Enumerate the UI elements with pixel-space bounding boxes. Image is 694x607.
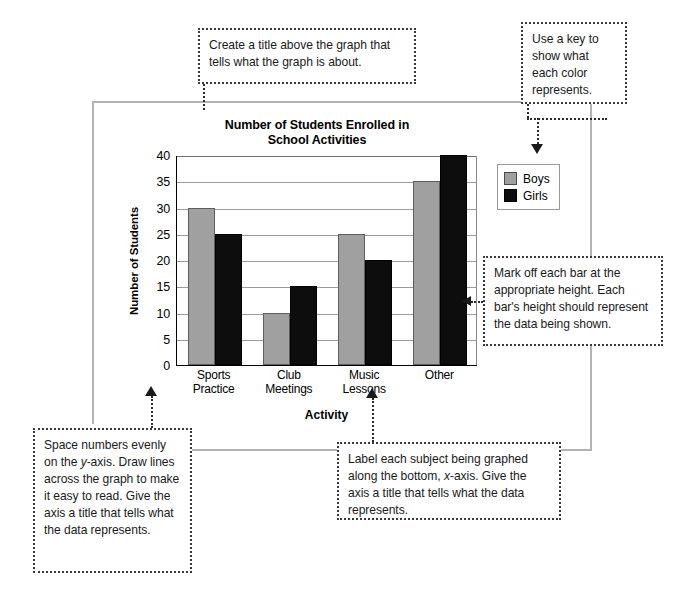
leader-bars-stem xyxy=(471,301,483,303)
leader-yaxis-stem xyxy=(151,396,153,428)
x-tick-label-line: Meetings xyxy=(251,382,326,396)
x-tick-label-line: Music xyxy=(327,368,402,382)
callout-key-note-text: Use a key to show what each color repres… xyxy=(532,32,599,97)
chart-title-line-2: School Activities xyxy=(162,133,472,148)
chart-title: Number of Students Enrolled in School Ac… xyxy=(162,118,472,148)
bar-boys xyxy=(413,181,440,365)
callout-title-note-text: Create a title above the graph that tell… xyxy=(209,38,390,69)
legend-label-girls: Girls xyxy=(523,189,548,203)
leader-xaxis-stem xyxy=(372,398,374,442)
x-tick-label-line: Club xyxy=(251,368,326,382)
x-tick-label: SportsPractice xyxy=(176,368,251,396)
bar-boys xyxy=(338,234,365,365)
bar-group xyxy=(327,156,402,365)
plot-row: Number of Students 0510152025303540 Spor… xyxy=(132,156,477,366)
y-tick-label: 15 xyxy=(156,280,170,294)
chart-legend: Boys Girls xyxy=(497,164,560,210)
leader-xaxis-arrow-up-icon xyxy=(366,388,378,398)
legend-swatch-girls-icon xyxy=(504,189,517,202)
x-axis-title: Activity xyxy=(176,408,477,422)
x-tick-label-line: Practice xyxy=(176,382,251,396)
bar-boys xyxy=(263,313,290,366)
bar-girls xyxy=(290,286,317,365)
leader-key-stem-1 xyxy=(527,104,529,118)
callout-yaxis-note: Space numbers evenly on the y-axis. Draw… xyxy=(33,428,192,573)
y-axis-title: Number of Students xyxy=(126,156,142,366)
x-tick-label: ClubMeetings xyxy=(251,368,326,396)
x-tick-label: Other xyxy=(402,368,477,396)
callout-bars-note: Mark off each bar at the appropriate hei… xyxy=(483,256,663,346)
bar-group xyxy=(252,156,327,365)
x-tick-label-line: Sports xyxy=(176,368,251,382)
legend-label-boys: Boys xyxy=(523,172,550,186)
x-tick-label: MusicLessons xyxy=(327,368,402,396)
bar-boys xyxy=(188,208,215,366)
worksheet-canvas: Number of Students Enrolled in School Ac… xyxy=(0,0,694,607)
bar-chart: Number of Students Enrolled in School Ac… xyxy=(132,118,477,388)
bar-group xyxy=(402,156,477,365)
bar-girls xyxy=(440,155,467,365)
legend-swatch-boys-icon xyxy=(504,172,517,185)
y-tick-label: 0 xyxy=(163,359,170,373)
plot-area xyxy=(176,156,477,366)
y-tick-label: 25 xyxy=(156,228,170,242)
callout-bars-note-text: Mark off each bar at the appropriate hei… xyxy=(494,266,648,331)
x-axis-tick-labels: SportsPracticeClubMeetingsMusicLessonsOt… xyxy=(176,368,477,396)
y-tick-label: 5 xyxy=(163,333,170,347)
leader-key-stem-3 xyxy=(537,118,539,144)
x-tick-label-line: Lessons xyxy=(327,382,402,396)
bar-girls xyxy=(365,260,392,365)
y-tick-label: 20 xyxy=(156,254,170,268)
legend-item-boys: Boys xyxy=(504,170,550,187)
legend-item-girls: Girls xyxy=(504,187,550,204)
leader-title-stem xyxy=(203,84,205,110)
y-tick-label: 35 xyxy=(156,175,170,189)
y-tick-label: 30 xyxy=(156,202,170,216)
y-axis-title-text: Number of Students xyxy=(128,207,140,315)
y-axis-tick-labels: 0510152025303540 xyxy=(144,156,170,366)
callout-xaxis-note: Label each subject being graphed along t… xyxy=(337,442,561,520)
x-tick-label-line: Other xyxy=(402,368,477,382)
y-tick-label: 10 xyxy=(156,307,170,321)
callout-title-note: Create a title above the graph that tell… xyxy=(198,28,416,84)
bar-groups xyxy=(177,156,477,365)
leader-yaxis-arrow-up-icon xyxy=(145,386,157,396)
bar-girls xyxy=(215,234,242,365)
chart-title-line-1: Number of Students Enrolled in xyxy=(162,118,472,133)
bar-group xyxy=(177,156,252,365)
leader-bars-arrow-left-icon xyxy=(462,296,471,306)
leader-key-stem-2 xyxy=(527,118,607,120)
callout-key-note: Use a key to show what each color repres… xyxy=(521,22,627,104)
leader-key-arrow-down-icon xyxy=(531,144,543,154)
y-tick-label: 40 xyxy=(156,149,170,163)
